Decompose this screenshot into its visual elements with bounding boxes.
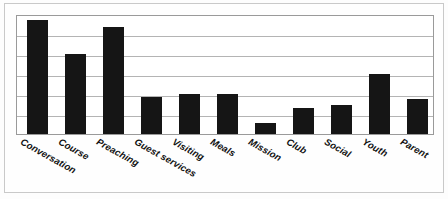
bar (407, 99, 428, 134)
x-tick-label: Parent (398, 136, 430, 160)
bar (141, 97, 162, 134)
bar (255, 123, 276, 134)
bar (369, 74, 390, 134)
bar (27, 20, 48, 134)
x-tick-label: Club (284, 136, 308, 156)
bar (179, 94, 200, 134)
plot-area (16, 15, 434, 135)
x-tick-label: Preaching (94, 136, 140, 168)
x-tick-label: Youth (360, 136, 389, 159)
x-tick-label: Social (322, 136, 352, 159)
bars-layer (17, 16, 433, 134)
bar (65, 54, 86, 134)
chart-figure: ConversationCoursePreachingGuest service… (0, 0, 448, 199)
x-tick-label: Mission (246, 136, 283, 163)
bar (103, 27, 124, 134)
bar (293, 108, 314, 134)
bar (217, 94, 238, 134)
x-tick-label: Meals (208, 136, 237, 159)
bar (331, 105, 352, 134)
x-axis-tick-labels: ConversationCoursePreachingGuest service… (16, 136, 434, 196)
